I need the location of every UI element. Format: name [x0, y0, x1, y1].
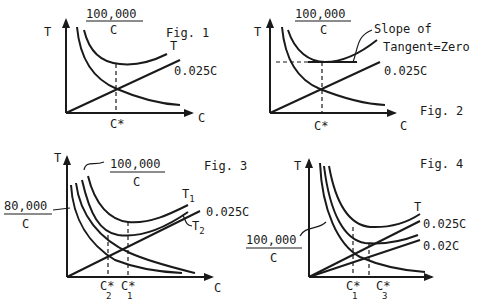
linear-curve — [270, 62, 380, 113]
total-cost-lower — [324, 166, 418, 243]
curve-label-0025c: 0.025C — [423, 217, 466, 231]
figure-label: Fig. 1 — [166, 26, 209, 40]
fraction-numerator: 100,000 — [246, 233, 297, 247]
curve-label-t2: T2 — [192, 219, 205, 236]
y-axis-label: T — [54, 151, 61, 165]
fraction-numerator: 100,000 — [86, 7, 137, 21]
figure-2: T C 100,000 C Slope of Tangent=Zero 0.02… — [254, 7, 470, 133]
fraction-denominator: C — [110, 23, 117, 37]
annotation-line-1: Slope of — [374, 22, 432, 36]
linear-curve — [66, 60, 180, 113]
fraction-leader — [300, 222, 326, 236]
total-cost-curve — [84, 30, 167, 64]
linear-002c — [309, 240, 420, 277]
fraction2-numerator: 80,000 — [4, 199, 47, 213]
y-axis-label: T — [254, 25, 261, 39]
fraction-denominator: C — [133, 175, 140, 189]
x-axis-label: C — [400, 119, 407, 133]
curve-label-t1: T1 — [182, 187, 195, 204]
curve-label-t: T — [170, 39, 177, 53]
fraction-leader — [84, 162, 104, 170]
figure-1: T C 100,000 C Fig. 1 T 0.025C C* — [44, 7, 217, 131]
curve-label-linear: 0.025C — [384, 64, 427, 78]
x-marker-c1: C*1 — [121, 279, 135, 301]
figure-4: T Fig. 4 100,000 C T 0.025C 0.02C C*1 C*… — [246, 157, 466, 301]
x-marker-c-star: C* — [314, 119, 328, 133]
hyperbola-100000 — [76, 183, 195, 273]
curve-label-t: T — [414, 200, 421, 214]
x-marker-c-star: C* — [110, 117, 124, 131]
x-axis-label: C — [214, 281, 221, 295]
figure-label: Fig. 2 — [420, 104, 463, 118]
diagram-canvas: T C 100,000 C Fig. 1 T 0.025C C* T C 100… — [0, 0, 483, 308]
x-marker-c1: C*1 — [346, 279, 360, 301]
fraction2-denominator: C — [22, 217, 29, 231]
curve-label-linear: 0.025C — [174, 64, 217, 78]
fraction-numerator: 100,000 — [295, 7, 346, 21]
x-axis-label: C — [198, 111, 205, 125]
curve-label-002c: 0.02C — [423, 239, 459, 253]
x-marker-c3: C*3 — [376, 279, 390, 301]
y-axis-label: T — [294, 159, 301, 173]
total-cost-upper — [329, 166, 420, 227]
fraction-denominator: C — [270, 251, 277, 265]
fraction-numerator: 100,000 — [110, 157, 161, 171]
curve-label-linear: 0.025C — [206, 205, 249, 219]
figure-label: Fig. 3 — [204, 159, 247, 173]
hyperbola-curve — [77, 27, 180, 105]
y-axis-label: T — [44, 25, 51, 39]
x-marker-c2: C*2 — [100, 279, 114, 301]
fraction-denominator: C — [320, 23, 327, 37]
annotation-line-2: Tangent=Zero — [383, 40, 470, 54]
figure-label: Fig. 4 — [420, 157, 463, 171]
figure-3: T C 100,000 C 80,000 C Fig. 3 T1 0.025C … — [4, 151, 249, 301]
